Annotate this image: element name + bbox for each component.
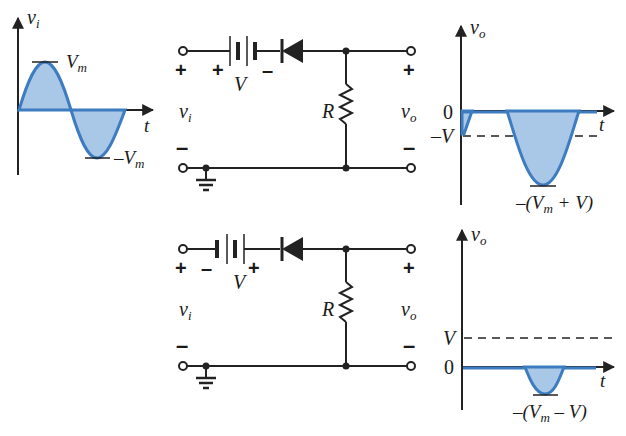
output-plus: +	[403, 257, 415, 279]
resistor-icon	[340, 282, 352, 322]
output-terminal-bottom	[407, 164, 415, 172]
output-terminal-top	[407, 47, 415, 55]
input-plus: +	[175, 59, 187, 81]
y-axis-label: vi	[27, 6, 40, 31]
battery-left-polarity: +	[212, 59, 224, 81]
trough-label: –Vm	[113, 147, 145, 171]
min-label: –(Vm + V)	[515, 192, 593, 216]
output-waveform-2: vo V 0 t –(Vm – V)	[443, 223, 614, 425]
ground-icon	[196, 366, 216, 388]
y-axis-label: vo	[471, 223, 487, 248]
x-axis-label: t	[600, 370, 606, 391]
clipped-wave-start	[462, 111, 472, 134]
input-minus: –	[176, 333, 188, 358]
input-plus: +	[175, 257, 187, 279]
junction-dot	[343, 363, 350, 370]
clipped-wave	[507, 111, 579, 185]
input-voltage-label: vi	[179, 100, 192, 125]
output-minus: –	[403, 333, 415, 358]
input-waveform: vi Vm t –Vm	[18, 6, 153, 175]
level-label: V	[443, 327, 458, 349]
junction-dot	[343, 165, 350, 172]
resistor-label: R	[321, 100, 334, 122]
zero-label: 0	[443, 101, 453, 123]
input-terminal-bottom	[179, 164, 187, 172]
output-minus: –	[403, 135, 415, 160]
min-label: –(Vm – V)	[512, 401, 587, 425]
battery-label: V	[233, 271, 248, 293]
output-terminal-bottom	[407, 362, 415, 370]
peak-label: Vm	[66, 51, 87, 75]
battery-left-polarity: –	[201, 257, 212, 279]
output-plus: +	[403, 59, 415, 81]
x-axis-label: t	[144, 115, 150, 136]
clipped-wave	[525, 367, 564, 394]
battery-label: V	[234, 73, 249, 95]
circuit-2: + – + V vi – R + vo –	[175, 234, 417, 388]
input-terminal-top	[179, 47, 187, 55]
ground-icon	[196, 168, 216, 190]
battery-right-polarity: –	[262, 59, 273, 81]
output-voltage-label: vo	[401, 298, 417, 323]
zero-label: 0	[444, 356, 454, 378]
resistor-label: R	[321, 298, 334, 320]
clipper-diagram: vi Vm t –Vm	[0, 0, 626, 436]
diode-icon	[282, 237, 303, 261]
circuit-1: + + – V vi – R + vo –	[175, 36, 417, 190]
sine-wave	[19, 62, 71, 110]
input-terminal-bottom	[179, 362, 187, 370]
input-voltage-label: vi	[179, 298, 192, 323]
battery-right-polarity: +	[248, 257, 260, 279]
output-terminal-top	[407, 245, 415, 253]
y-axis-label: vo	[470, 16, 486, 41]
output-voltage-label: vo	[401, 100, 417, 125]
output-waveform-1: vo 0 –V t –(Vm + V)	[430, 16, 614, 216]
diode-icon	[282, 39, 303, 63]
input-terminal-top	[179, 245, 187, 253]
x-axis-label: t	[599, 114, 605, 135]
input-minus: –	[176, 135, 188, 160]
resistor-icon	[340, 84, 352, 124]
level-label: –V	[430, 125, 456, 147]
